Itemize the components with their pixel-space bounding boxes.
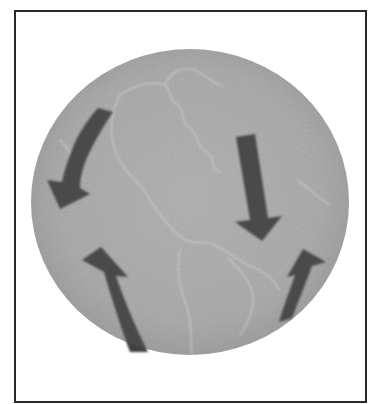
globe-diagram — [0, 0, 377, 404]
texture-overlay — [31, 49, 349, 355]
